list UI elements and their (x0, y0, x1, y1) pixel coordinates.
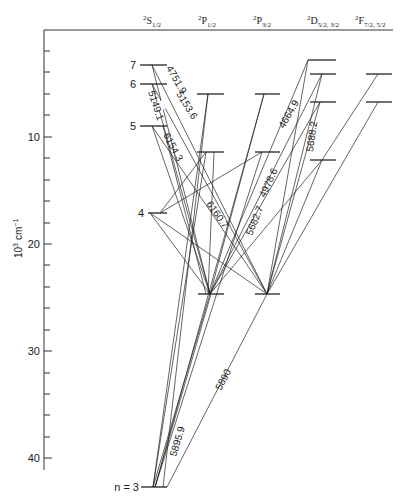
level-label-4: 4 (138, 207, 144, 219)
level-labels: 7 6 5 4 n = 3 (114, 59, 144, 493)
y-tick-40: 40 (28, 452, 40, 464)
level-label-5: 5 (130, 120, 136, 132)
y-tick-20: 20 (28, 238, 40, 250)
wavelength-4664-9: 4664.9 (276, 98, 301, 130)
level-label-6: 6 (130, 78, 136, 90)
y-axis-label: 103cm−1 (12, 219, 24, 258)
transition-lines (150, 60, 378, 487)
y-tick-10: 10 (28, 131, 40, 143)
axes: 10 20 30 40 103cm−1 (12, 30, 393, 470)
wavelength-5688-2: 5688.2 (304, 120, 319, 152)
grotrian-diagram: 2S1/2 2P1/2 2P3/2 2D5/2, 3/2 2F7/2, 5/2 (0, 0, 411, 500)
svg-text:103cm−1: 103cm−1 (12, 219, 24, 258)
level-label-7: 7 (130, 59, 136, 71)
y-tick-30: 30 (28, 345, 40, 357)
wavelength-5890: 5890 (213, 367, 233, 392)
energy-levels (140, 60, 392, 487)
ground-level-label: n = 3 (114, 481, 139, 493)
wavelength-4978-6: 4978.6 (257, 166, 280, 199)
wavelength-6154-3: 6154.3 (161, 131, 185, 164)
diagram-canvas: 10 20 30 40 103cm−1 (0, 0, 411, 500)
wavelength-5895-9: 5895.9 (167, 425, 187, 458)
